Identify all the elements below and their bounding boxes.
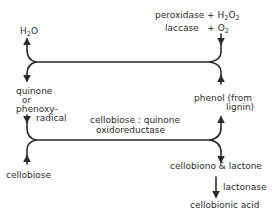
- label-lactone: cellobiono & lactone: [170, 161, 262, 171]
- label-enzyme-line1: cellobiose : quinone: [90, 115, 180, 125]
- label-lactonase: lactonase: [223, 182, 266, 192]
- label-h2o: H2O: [20, 26, 38, 36]
- arrow-to-phenol: [210, 117, 221, 140]
- label-lignin: lignin): [226, 102, 254, 112]
- label-enzyme-line2: oxidoreductase: [96, 125, 165, 135]
- arrow-to-lactone: [210, 140, 221, 162]
- label-peroxidase: peroxidase + H2O2: [155, 10, 240, 20]
- arrow-to-quinone: [27, 62, 36, 81]
- arrow-to-h2o: [27, 39, 36, 62]
- label-laccase: laccase + O2: [165, 23, 229, 33]
- label-cellobiose: cellobiose: [6, 170, 51, 180]
- label-radical: radical: [36, 113, 66, 123]
- label-cellobionic-acid: cellobionic acid: [190, 200, 259, 210]
